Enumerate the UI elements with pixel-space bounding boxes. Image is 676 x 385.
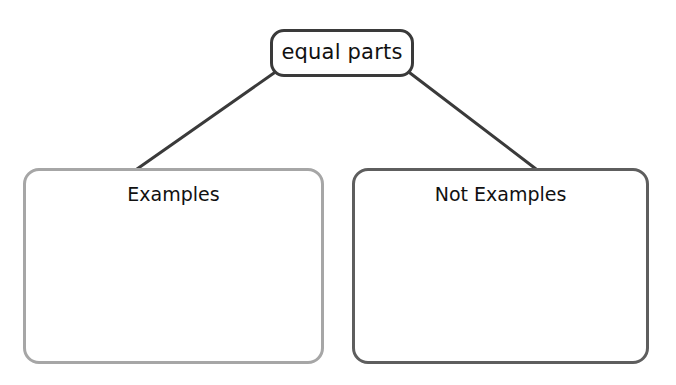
- examples-box[interactable]: Examples: [23, 168, 324, 364]
- not-examples-heading: Not Examples: [355, 183, 646, 205]
- examples-heading: Examples: [26, 183, 321, 205]
- root-node-label: equal parts: [281, 40, 402, 64]
- not-examples-box[interactable]: Not Examples: [352, 168, 649, 364]
- connector-to-examples: [137, 73, 274, 169]
- root-node: equal parts: [270, 29, 414, 77]
- connector-to-not-examples: [410, 73, 536, 169]
